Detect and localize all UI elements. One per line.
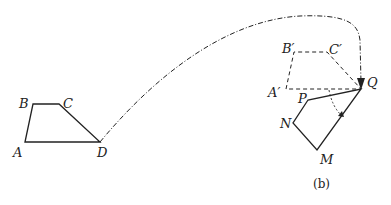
translated-quadrilateral [286,52,361,89]
label-b: B [18,96,29,111]
figure-caption: (b) [313,177,330,191]
label-q: Q [367,75,378,90]
diagram-canvas: B C A D B′ C′ A′ Q P N M (b) [0,0,391,205]
translation-path [100,16,361,142]
geometry-figure: B C A D B′ C′ A′ Q P N M (b) [0,0,391,205]
label-d: D [96,145,108,160]
label-p: P [297,91,307,106]
label-n: N [279,116,292,131]
label-m: M [319,152,334,167]
label-a-prime: A′ [267,85,280,100]
label-c-prime: C′ [329,42,342,57]
label-a: A [12,145,22,160]
label-c: C [63,96,73,111]
arrowhead-icon [357,78,365,90]
label-b-prime: B′ [281,41,295,56]
